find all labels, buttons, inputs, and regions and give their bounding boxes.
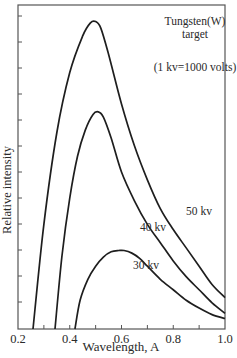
label-40kv: 40 kv bbox=[140, 221, 166, 233]
plot-border bbox=[18, 5, 225, 329]
x-tick-label: 0.4 bbox=[62, 332, 78, 346]
label-50kv: 50 kv bbox=[186, 205, 212, 217]
unit-note: (1 kv=1000 volts) bbox=[154, 61, 237, 74]
y-axis-label: Relative intensity bbox=[0, 145, 14, 234]
target-title: Tungsten(W) bbox=[165, 15, 226, 28]
x-tick-label: 1.0 bbox=[217, 332, 233, 346]
chart-annotations: Tungsten(W)target(1 kv=1000 volts)50 kv4… bbox=[133, 15, 236, 271]
plot-frame bbox=[18, 5, 225, 329]
xray-spectrum-chart: 0.20.40.60.81.0 Tungsten(W)target(1 kv=1… bbox=[0, 0, 237, 358]
x-axis-label: Wavelength, A bbox=[83, 339, 161, 354]
x-tick-label: 0.8 bbox=[165, 332, 181, 346]
x-tick-label: 0.2 bbox=[10, 332, 26, 346]
label-30kv: 30 kv bbox=[133, 259, 159, 271]
target-subtitle: target bbox=[182, 28, 209, 41]
